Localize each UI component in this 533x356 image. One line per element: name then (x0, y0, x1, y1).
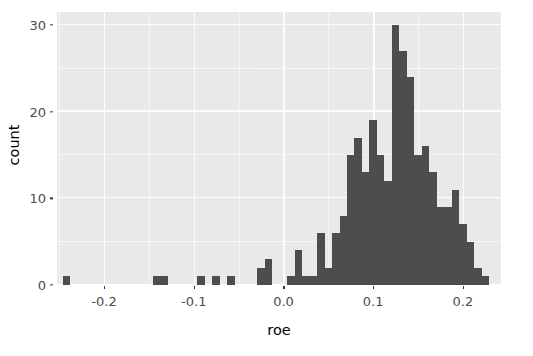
y-tick-label: 30 (2, 19, 46, 32)
histogram-bar (362, 172, 369, 285)
x-axis: -0.2-0.10.00.10.2 (57, 286, 501, 312)
histogram-bar (325, 268, 332, 285)
histogram-bar (354, 138, 361, 285)
gridline-minor-vertical (239, 12, 240, 285)
gridline-minor-horizontal (57, 68, 501, 69)
histogram-bar (160, 276, 167, 285)
x-tick-mark (104, 286, 105, 289)
x-tick-label: -0.2 (74, 295, 134, 308)
histogram-bar (392, 25, 399, 285)
histogram-bar (384, 181, 391, 285)
histogram-bar (414, 155, 421, 285)
histogram-bar (340, 216, 347, 285)
histogram-bar (407, 77, 414, 285)
histogram-bar (437, 207, 444, 285)
histogram-bar (63, 276, 70, 285)
gridline-minor-vertical (149, 12, 150, 285)
x-tick-label: -0.1 (164, 295, 224, 308)
histogram-bar (197, 276, 204, 285)
histogram-bar (265, 259, 272, 285)
x-tick-mark (283, 286, 284, 289)
histogram-bar (227, 276, 234, 285)
histogram-bar (302, 276, 309, 285)
x-tick-mark (373, 286, 374, 289)
histogram-bar (444, 207, 451, 285)
gridline-major-horizontal (57, 24, 501, 25)
histogram-bar (257, 268, 264, 285)
gridline-major-horizontal (57, 110, 501, 111)
histogram-bar (482, 276, 489, 285)
histogram-bar (317, 233, 324, 285)
histogram-bar (467, 242, 474, 285)
y-tick-label: 20 (2, 105, 46, 118)
y-tick-mark (50, 111, 53, 112)
histogram-bar (422, 146, 429, 285)
histogram-bar (295, 250, 302, 285)
gridline-major-vertical (104, 12, 105, 285)
x-tick-mark (463, 286, 464, 289)
x-tick-label: 0.1 (343, 295, 403, 308)
y-axis: 0102030 (0, 12, 55, 285)
histogram-bar (369, 120, 376, 285)
histogram-bar (212, 276, 219, 285)
histogram-bar (287, 276, 294, 285)
histogram-bar (474, 268, 481, 285)
histogram-chart: count 0102030 -0.2-0.10.00.10.2 roe (0, 0, 533, 356)
y-tick-mark (50, 198, 53, 199)
x-tick-label: 0.0 (253, 295, 313, 308)
gridline-minor-horizontal (57, 154, 501, 155)
plot-panel (57, 12, 501, 285)
histogram-bar (429, 172, 436, 285)
gridline-minor-vertical (328, 12, 329, 285)
gridline-major-vertical (194, 12, 195, 285)
x-tick-mark (194, 286, 195, 289)
gridline-minor-vertical (59, 12, 60, 285)
x-tick-label: 0.2 (433, 295, 493, 308)
gridline-major-vertical (283, 12, 284, 285)
histogram-bar (399, 51, 406, 285)
histogram-bar (310, 276, 317, 285)
histogram-bar (332, 233, 339, 285)
y-tick-label: 10 (2, 192, 46, 205)
y-tick-mark (50, 284, 53, 285)
histogram-bar (377, 155, 384, 285)
y-tick-mark (50, 24, 53, 25)
y-tick-label: 0 (2, 279, 46, 292)
histogram-bar (459, 224, 466, 285)
histogram-bar (153, 276, 160, 285)
histogram-bar (452, 190, 459, 285)
histogram-bar (347, 155, 354, 285)
x-axis-title: roe (57, 322, 501, 338)
